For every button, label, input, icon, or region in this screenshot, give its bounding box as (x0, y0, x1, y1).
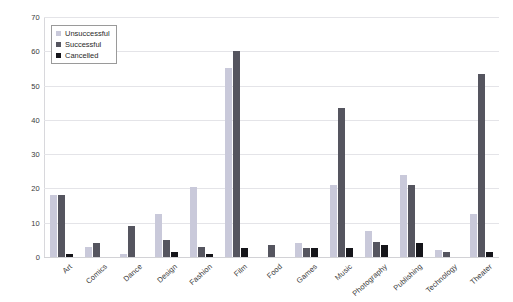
x-axis-tick-label: Theater (468, 262, 494, 286)
y-axis: 010203040506070 (0, 17, 40, 257)
bar (225, 68, 232, 257)
bar (66, 254, 73, 257)
bar (346, 248, 353, 257)
bar (443, 252, 450, 257)
bar-group (359, 17, 394, 257)
bar-group (429, 17, 464, 257)
bar (190, 187, 197, 257)
bar (311, 248, 318, 257)
y-axis-tick-label: 30 (6, 150, 40, 159)
bar-group-bars (149, 17, 184, 257)
bar (85, 247, 92, 257)
legend-item-successful: Successful (56, 40, 110, 49)
bar-group (394, 17, 429, 257)
x-axis-tick-label: Photography (350, 262, 388, 298)
gridline (44, 257, 499, 258)
x-axis-tick-label: Art (60, 262, 73, 275)
bar (241, 248, 248, 257)
legend-swatch-cancelled (56, 53, 61, 58)
bar (128, 226, 135, 257)
legend-item-unsuccessful: Unsuccessful (56, 29, 110, 38)
bar (171, 252, 178, 257)
bar (206, 254, 213, 257)
bar-group (289, 17, 324, 257)
x-axis-tick-label: Publishing (391, 262, 423, 293)
y-axis-tick-label: 10 (6, 218, 40, 227)
x-axis-tick-label: Dance (121, 262, 144, 284)
bar-group (464, 17, 499, 257)
bar (373, 242, 380, 257)
legend-label-successful: Successful (65, 40, 101, 49)
bar-group-bars (219, 17, 254, 257)
y-axis-tick-label: 70 (6, 13, 40, 22)
legend-item-cancelled: Cancelled (56, 51, 110, 60)
bar (198, 247, 205, 257)
x-axis-tick-label: Film (232, 262, 249, 278)
bar-group-bars (324, 17, 359, 257)
bar (50, 195, 57, 257)
chart-legend: Unsuccessful Successful Cancelled (51, 25, 117, 64)
x-axis-tick-label: Fashion (187, 262, 213, 287)
x-axis-tick-label: Technology (424, 262, 459, 295)
bar-group-bars (289, 17, 324, 257)
y-axis-tick-label: 50 (6, 81, 40, 90)
bar (486, 252, 493, 257)
bar (338, 108, 345, 257)
bar (330, 185, 337, 257)
x-axis-tick-label: Music (333, 262, 354, 282)
bar-group-bars (254, 17, 289, 257)
bar-group (114, 17, 149, 257)
y-axis-tick-label: 0 (6, 253, 40, 262)
bar-group-bars (359, 17, 394, 257)
bar-group (254, 17, 289, 257)
bar (303, 248, 310, 257)
bar (268, 245, 275, 257)
bar (93, 243, 100, 257)
bar (295, 243, 302, 257)
bar-group-bars (184, 17, 219, 257)
bar (435, 250, 442, 257)
x-axis-tick-label: Design (155, 262, 179, 285)
y-axis-tick-label: 20 (6, 184, 40, 193)
bar-group-bars (394, 17, 429, 257)
bar (120, 254, 127, 257)
bar (233, 51, 240, 257)
legend-swatch-unsuccessful (56, 31, 61, 36)
y-axis-tick-label: 60 (6, 47, 40, 56)
bar (400, 175, 407, 257)
bar (155, 214, 162, 257)
bar (408, 185, 415, 257)
x-axis-tick-label: Comics (83, 262, 108, 286)
bar (365, 231, 372, 257)
bar (58, 195, 65, 257)
x-axis-tick-label: Food (264, 262, 283, 280)
x-axis-tick-label: Games (294, 262, 318, 285)
bar-group (324, 17, 359, 257)
bar (163, 240, 170, 257)
bar-group-bars (429, 17, 464, 257)
bar (470, 214, 477, 257)
bar-group (219, 17, 254, 257)
bar-group-bars (464, 17, 499, 257)
bar (381, 245, 388, 257)
bar (416, 243, 423, 257)
bar-group (149, 17, 184, 257)
legend-label-unsuccessful: Unsuccessful (65, 29, 110, 38)
bar (478, 74, 485, 257)
bar-group (184, 17, 219, 257)
legend-swatch-successful (56, 42, 61, 47)
bar-chart: 010203040506070 Unsuccessful Successful … (0, 0, 513, 302)
legend-label-cancelled: Cancelled (65, 51, 98, 60)
bar-group-bars (114, 17, 149, 257)
y-axis-tick-label: 40 (6, 115, 40, 124)
